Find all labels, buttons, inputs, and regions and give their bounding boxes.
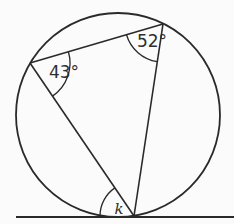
angle-label-52: 52° — [137, 31, 167, 51]
angle-label-k: k — [114, 200, 123, 218]
geometry-figure: 43° 52° k — [0, 0, 234, 224]
angle-label-43: 43° — [49, 62, 79, 82]
